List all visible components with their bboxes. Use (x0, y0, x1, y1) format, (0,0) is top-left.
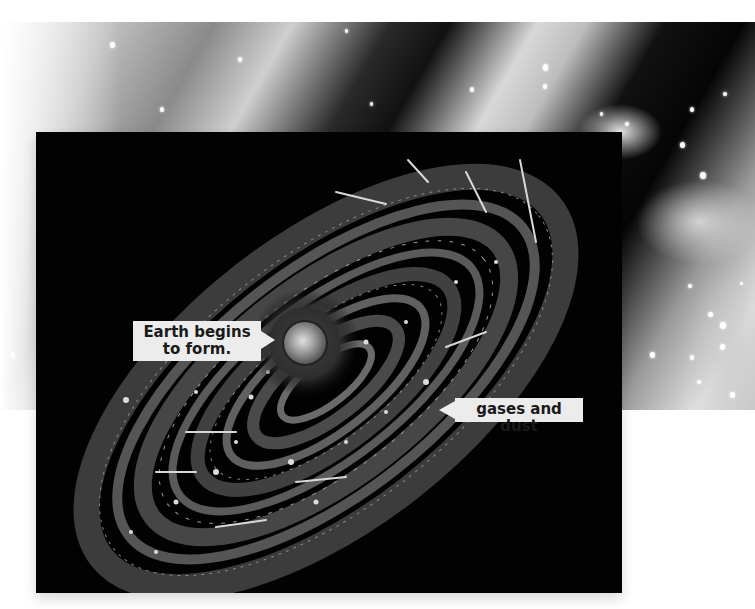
earth-label-line1: Earth begins (133, 324, 261, 341)
spiral-disk-graphic (36, 132, 622, 593)
forming-earth (283, 321, 327, 365)
solar-nebula-illustration: Earth begins to form. gases and dust (36, 132, 622, 593)
gases-and-dust-label: gases and dust (455, 398, 583, 422)
earth-begins-to-form-label: Earth begins to form. (133, 321, 261, 361)
earth-label-line2: to form. (133, 341, 261, 358)
